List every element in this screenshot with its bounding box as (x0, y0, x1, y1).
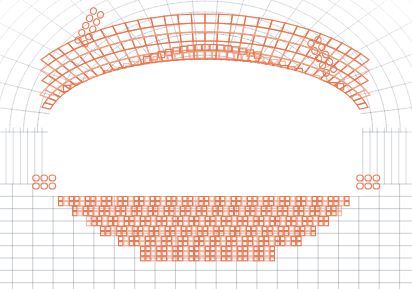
fem-mesh-figure (0, 0, 412, 289)
mesh-canvas (0, 0, 412, 289)
